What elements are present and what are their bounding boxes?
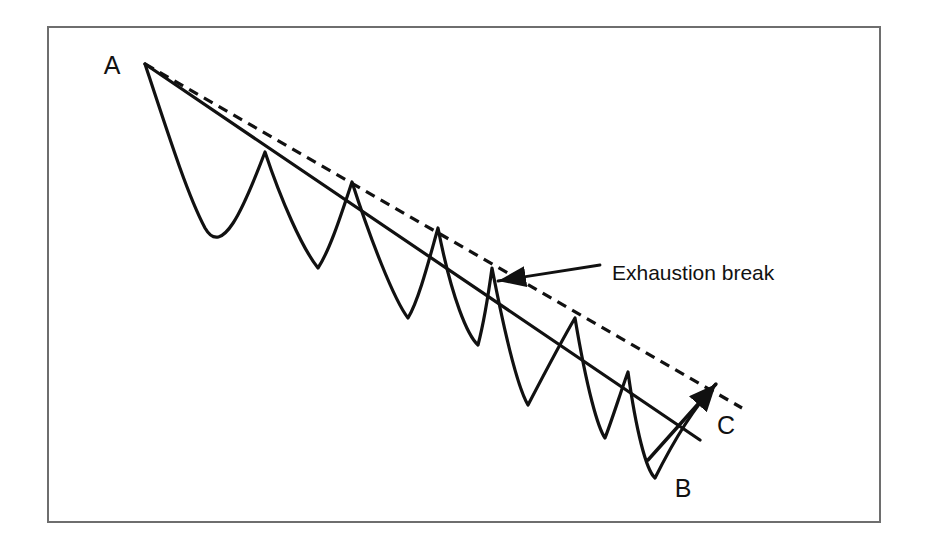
figure-background — [0, 0, 925, 549]
exhaustion-break-diagram: A B C Exhaustion break — [0, 0, 925, 549]
point-label-b: B — [675, 474, 692, 502]
point-label-a: A — [104, 51, 121, 79]
exhaustion-break-label: Exhaustion break — [612, 261, 775, 284]
figure-root: A B C Exhaustion break — [0, 0, 925, 549]
point-label-c: C — [717, 411, 735, 439]
